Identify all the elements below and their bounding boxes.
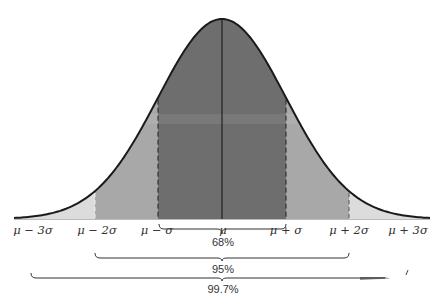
label-95-percent: 95% xyxy=(212,263,234,275)
band-2sigma-left xyxy=(95,0,158,220)
axis-label-mu-plus-2sigma: μ + 2σ xyxy=(329,223,369,237)
label-text: μ + σ xyxy=(270,223,302,237)
normal-curve-diagram xyxy=(0,0,440,305)
bracket-99-7 xyxy=(31,273,385,281)
band-3sigma-left xyxy=(10,0,95,220)
axis-label-mu: μ xyxy=(219,223,226,237)
axis-label-mu-plus-sigma: μ + σ xyxy=(270,223,302,237)
label-text: μ + 2σ xyxy=(329,223,369,237)
axis-label-mu-plus-3sigma: μ + 3σ xyxy=(388,223,428,237)
label-text: μ + 3σ xyxy=(388,223,428,237)
label-text: μ xyxy=(219,223,226,237)
label-text: μ − 3σ xyxy=(13,223,53,237)
label-68-percent: 68% xyxy=(212,236,234,248)
band-2sigma-right xyxy=(286,0,349,220)
axis-label-mu-minus-2sigma: μ − 2σ xyxy=(77,223,117,237)
label-text: μ − 2σ xyxy=(77,223,117,237)
axis-label-mu-minus-sigma: μ − σ xyxy=(141,223,173,237)
bracket-95 xyxy=(95,253,349,261)
band-3sigma-right xyxy=(349,0,434,220)
label-text: μ − σ xyxy=(141,223,173,237)
label-99-7-percent: 99.7% xyxy=(207,283,238,295)
axis-label-mu-minus-3sigma: μ − 3σ xyxy=(13,223,53,237)
